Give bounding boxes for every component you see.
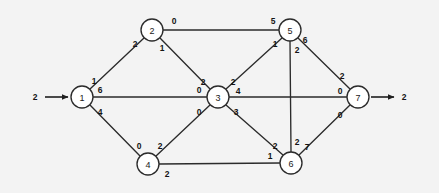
label-1-3-near1: 6	[98, 85, 103, 95]
node-6-label: 6	[288, 159, 293, 169]
label-1-2-near1: 1	[92, 76, 97, 86]
edge-4-3	[156, 105, 210, 156]
label-1-3-near3: 0	[197, 85, 202, 95]
edge-5-6	[290, 41, 291, 152]
label-5-7-near7: 2	[340, 71, 345, 81]
network-graph-canvas: 1234567 12051260402022140322262701 22	[0, 0, 439, 193]
label-2-3-near3: 2	[201, 77, 206, 87]
label-2-5-near2: 0	[172, 16, 177, 26]
node-5-label: 5	[287, 26, 292, 36]
source-flow-label: 2	[33, 92, 38, 102]
label-5-7-near5: 6	[303, 35, 308, 45]
network-flow-diagram: 1234567 12051260402022140322262701 22	[0, 0, 439, 193]
label-3-7-near3: 4	[236, 86, 241, 96]
edge-5-7	[298, 38, 350, 89]
node-2-label: 2	[149, 26, 154, 36]
label-6-7-near6: 7	[305, 142, 310, 152]
node-3-label: 3	[215, 93, 220, 103]
node-1-label: 1	[79, 93, 84, 103]
label-4-3-near4: 2	[158, 141, 163, 151]
label-3-5-near5: 1	[273, 39, 278, 49]
node-7-label: 7	[355, 93, 360, 103]
label-6-7-near7: 0	[338, 110, 343, 120]
label-4-3-near3: 0	[197, 107, 202, 117]
label-2-3-near2: 1	[160, 43, 165, 53]
label-3-6-near6: 2	[273, 141, 278, 151]
sink-flow-label: 2	[402, 92, 407, 102]
label-2-5-near5: 5	[271, 16, 276, 26]
node-4-label: 4	[145, 160, 150, 170]
label-5-6-near5: 2	[295, 45, 300, 55]
label-1-4-near4: 0	[137, 141, 142, 151]
label-1-2-near2: 2	[133, 39, 138, 49]
label-4-6-near4: 2	[165, 169, 170, 179]
label-3-7-near7: 0	[338, 86, 343, 96]
label-1-4-near1: 4	[98, 107, 103, 117]
edge-4-6	[159, 163, 280, 164]
label-6-4-near6: 1	[268, 151, 273, 161]
label-5-6-near6: 2	[295, 137, 300, 147]
label-3-6-near3: 3	[234, 107, 239, 117]
